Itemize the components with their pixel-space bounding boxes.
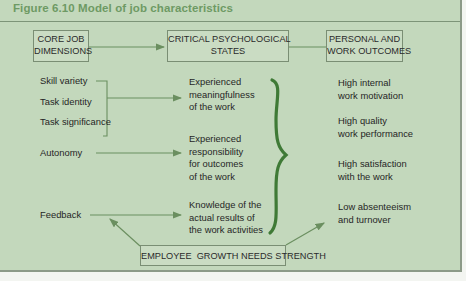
core-task-significance: Task significance bbox=[40, 116, 111, 129]
arrow-growth-to-outcomes bbox=[286, 223, 324, 245]
figure-panel: Figure 6.10 Model of job characteristics… bbox=[0, 0, 462, 272]
outcome-absenteeism: Low absenteeism and turnover bbox=[338, 201, 411, 226]
core-task-identity: Task identity bbox=[40, 96, 92, 109]
state-meaningfulness: Experienced meaningfulness of the work bbox=[189, 76, 255, 114]
state-knowledge-results: Knowledge of the actual results of the w… bbox=[189, 199, 263, 237]
state-responsibility: Experienced responsibility for outcomes … bbox=[189, 133, 243, 183]
core-autonomy: Autonomy bbox=[40, 147, 82, 160]
outcome-performance: High quality work performance bbox=[338, 115, 413, 140]
arrow-growth-to-feedback bbox=[110, 219, 140, 246]
core-skill-variety: Skill variety bbox=[40, 75, 87, 88]
header-core-job-dimensions: CORE JOB DIMENSIONS bbox=[33, 30, 89, 62]
header-critical-psychological-states: CRITICAL PSYCHOLOGICAL STATES bbox=[167, 30, 289, 62]
outcome-motivation: High internal work motivation bbox=[338, 77, 403, 102]
outcome-satisfaction: High satisfaction with the work bbox=[338, 158, 407, 183]
moderator-growth-needs-strength: EMPLOYEE GROWTH NEEDS STRENGTH bbox=[140, 245, 286, 266]
core-feedback: Feedback bbox=[40, 209, 81, 222]
brace-icon bbox=[270, 80, 286, 233]
header-personal-work-outcomes: PERSONAL AND WORK OUTCOMES bbox=[326, 30, 403, 62]
